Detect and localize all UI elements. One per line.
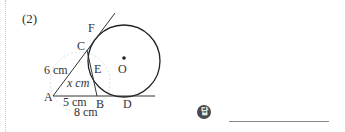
label-f: F [88,21,95,35]
answer-badge-icon: 답 [197,105,211,119]
circle-o [88,25,160,97]
center-point-o [122,56,126,60]
measure-ad: 8 cm [74,105,98,119]
measure-ac: 6 cm [44,63,68,77]
label-d: D [123,97,132,111]
answer-input-line[interactable] [229,121,329,122]
geometry-figure: F C E O A B D 6 cm x cm 5 cm 8 cm [0,0,345,132]
label-c: C [77,39,85,53]
label-o: O [118,62,127,76]
measure-bc: x cm [66,76,90,90]
label-e: E [94,62,101,76]
label-a: A [44,90,53,104]
